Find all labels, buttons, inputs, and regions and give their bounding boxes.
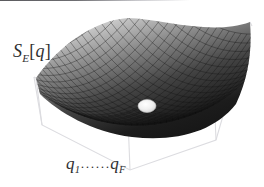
figure-container: SE[q] q1······qF (0, 0, 264, 187)
x-label-last-subscript: F (119, 164, 126, 175)
y-label-symbol: S (13, 41, 22, 61)
y-label-close-bracket: ] (45, 41, 51, 61)
x-axis-label: q1······qF (66, 155, 126, 176)
x-label-last-symbol: q (110, 154, 119, 173)
surface-plot-canvas (0, 0, 264, 187)
x-label-first-symbol: q (66, 154, 75, 173)
y-axis-label: SE[q] (13, 42, 51, 64)
x-label-ellipsis: ······ (80, 159, 110, 174)
y-label-argument: q (35, 41, 44, 61)
minimum-ball-marker (138, 100, 156, 113)
